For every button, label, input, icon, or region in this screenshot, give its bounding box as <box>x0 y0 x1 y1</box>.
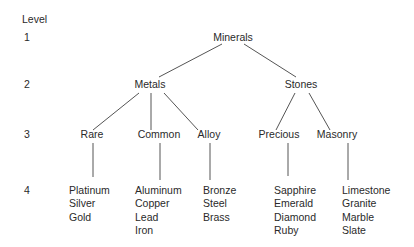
leaf-item: Iron <box>135 224 182 237</box>
leaf-item: Gold <box>69 211 110 224</box>
leaf-item: Diamond <box>274 211 316 224</box>
leaf-item: Brass <box>203 211 236 224</box>
level-3-label: 3 <box>24 128 30 141</box>
level-header: Level <box>22 13 47 26</box>
leaf-item: Bronze <box>203 184 236 197</box>
node-stones: Stones <box>285 78 318 91</box>
node-precious: Precious <box>259 128 300 141</box>
node-alloy: Alloy <box>198 128 221 141</box>
leaf-item: Marble <box>342 211 390 224</box>
node-metals: Metals <box>135 78 166 91</box>
hierarchy-diagram: Level 1 2 3 4 Minerals Metals Stones Rar… <box>0 0 414 247</box>
leaf-item: Steel <box>203 197 236 210</box>
leaf-item: Granite <box>342 197 390 210</box>
node-masonry: Masonry <box>317 128 357 141</box>
leaf-item: Lead <box>135 211 182 224</box>
level-2-label: 2 <box>24 78 30 91</box>
node-rare: Rare <box>81 128 104 141</box>
leaf-item: Aluminum <box>135 184 182 197</box>
leaf-item: Sapphire <box>274 184 316 197</box>
leaf-list-precious: Sapphire Emerald Diamond Ruby <box>274 184 316 237</box>
leaf-item: Slate <box>342 224 390 237</box>
leaf-list-common: Aluminum Copper Lead Iron <box>135 184 182 237</box>
leaf-item: Silver <box>69 197 110 210</box>
leaf-item: Ruby <box>274 224 316 237</box>
level-4-label: 4 <box>24 184 30 197</box>
leaf-item: Copper <box>135 197 182 210</box>
leaf-list-rare: Platinum Silver Gold <box>69 184 110 224</box>
leaf-list-masonry: Limestone Granite Marble Slate <box>342 184 390 237</box>
leaf-item: Limestone <box>342 184 390 197</box>
leaf-item: Platinum <box>69 184 110 197</box>
node-common: Common <box>138 128 181 141</box>
level-1-label: 1 <box>24 31 30 44</box>
leaf-item: Emerald <box>274 197 316 210</box>
leaf-list-alloy: Bronze Steel Brass <box>203 184 236 224</box>
node-minerals: Minerals <box>213 31 253 44</box>
